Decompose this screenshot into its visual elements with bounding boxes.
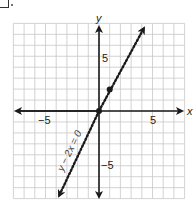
y-axis-label: y: [95, 12, 103, 24]
equation-label: y − 2x = 0: [54, 128, 83, 174]
coordinate-plane: x y −5 5 5 −5 y − 2x = 0: [0, 0, 195, 203]
point-1-2: [107, 87, 113, 93]
y-tick-neg5: −5: [101, 159, 114, 171]
x-axis-label: x: [186, 105, 193, 117]
line-y-equals-2x: [99, 28, 144, 111]
x-tick-5: 5: [150, 114, 156, 126]
point-origin: [96, 108, 102, 114]
x-tick-neg5: −5: [38, 114, 51, 126]
y-tick-5: 5: [102, 52, 108, 64]
